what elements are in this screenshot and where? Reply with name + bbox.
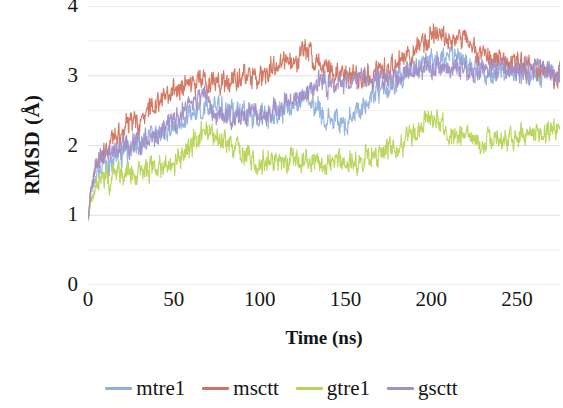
x-tick-label: 250 [487, 289, 547, 310]
x-tick-label: 200 [401, 289, 461, 310]
legend-item-gsctt[interactable]: gsctt [387, 378, 458, 399]
x-tick-label: 100 [230, 289, 290, 310]
legend-color-swatch [202, 387, 229, 390]
series-line-gsctt [88, 56, 560, 219]
x-tick-label: 0 [58, 289, 118, 310]
x-tick-label: 50 [144, 289, 204, 310]
legend-label: gtre1 [327, 378, 370, 399]
rmsd-line-chart: RMSD (Å) 43210 050100150200250 Time (ns)… [0, 0, 563, 408]
legend-item-mtre1[interactable]: mtre1 [105, 378, 185, 399]
legend-color-swatch [105, 387, 132, 390]
chart-legend: mtre1mscttgtre1gsctt [0, 378, 563, 399]
legend-label: msctt [233, 378, 279, 399]
legend-color-swatch [387, 387, 414, 390]
plot-svg [88, 6, 560, 285]
y-tick-label: 4 [32, 0, 78, 16]
legend-item-msctt[interactable]: msctt [202, 378, 279, 399]
legend-label: mtre1 [136, 378, 185, 399]
legend-color-swatch [296, 387, 323, 390]
x-axis-title: Time (ns) [88, 327, 560, 349]
legend-item-gtre1[interactable]: gtre1 [296, 378, 370, 399]
plot-area [88, 6, 560, 285]
x-tick-label: 150 [315, 289, 375, 310]
y-axis-title: RMSD (Å) [20, 25, 45, 265]
legend-label: gsctt [418, 378, 458, 399]
